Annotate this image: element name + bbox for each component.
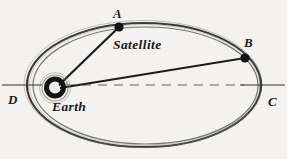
point-b-label: B — [244, 36, 253, 49]
point-c-label: C — [268, 95, 277, 108]
satellite-label: Satellite — [113, 38, 162, 52]
point-a-marker — [114, 22, 123, 31]
earth-core — [50, 83, 59, 92]
earth-label: Earth — [52, 100, 86, 114]
orbit-drawing — [0, 0, 287, 159]
point-b-marker — [240, 53, 249, 62]
point-a-label: A — [113, 7, 122, 20]
radius-line-earth-to-b — [60, 58, 245, 88]
point-d-label: D — [8, 93, 18, 106]
radius-line-earth-to-a — [58, 27, 119, 86]
satellite-orbit-diagram: A B C D Satellite Earth — [0, 0, 287, 159]
